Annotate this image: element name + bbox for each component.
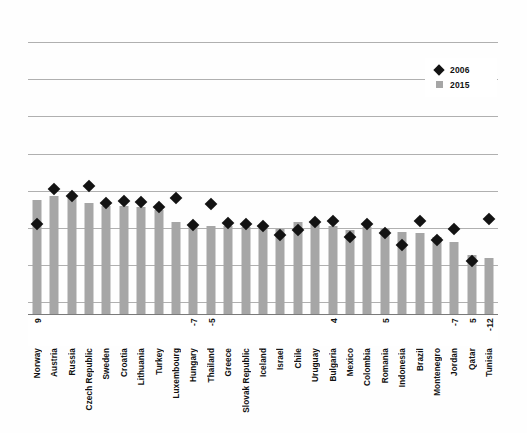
category-label: Greece — [224, 348, 233, 376]
category-label: Mexico — [346, 348, 355, 376]
value-label-row: 9-7-545-75-12 — [28, 316, 498, 346]
category-slot — [376, 4, 393, 315]
marker-2006 — [135, 196, 148, 209]
bar-2015 — [50, 196, 59, 315]
marker-2006 — [48, 183, 61, 196]
point-value-label: -7 — [450, 318, 460, 326]
x-axis-baseline — [28, 314, 498, 315]
bar-2015 — [328, 226, 337, 315]
bar-2015 — [189, 224, 198, 315]
category-slot — [115, 4, 132, 315]
category-label: Norway — [33, 348, 42, 378]
category-slot — [324, 4, 341, 315]
category-slot — [98, 4, 115, 315]
category-slot — [359, 4, 376, 315]
series-layer — [28, 4, 498, 315]
category-slot — [167, 4, 184, 315]
point-value-label: 9 — [33, 318, 43, 323]
bar-2015 — [206, 226, 215, 315]
category-axis-labels: NorwayAustriaRussiaCzech RepublicSwedenC… — [28, 348, 498, 430]
bar-2015 — [224, 226, 233, 315]
bar-2015 — [67, 198, 76, 315]
category-slot — [150, 4, 167, 315]
bar-2015 — [258, 228, 267, 315]
bar-2015 — [84, 203, 93, 315]
category-slot — [446, 4, 463, 315]
category-label: Thailand — [207, 348, 216, 382]
category-label: Russia — [68, 348, 77, 375]
legend-label: 2006 — [450, 65, 470, 75]
marker-2006 — [83, 180, 96, 193]
legend-item-2006: 2006 — [431, 62, 493, 77]
category-slot — [411, 4, 428, 315]
category-slot — [185, 4, 202, 315]
bar-2015 — [102, 206, 111, 315]
category-label: Croatia — [120, 348, 129, 377]
category-label: Luxembourg — [172, 348, 181, 399]
category-slot — [272, 4, 289, 315]
category-slot — [463, 4, 480, 315]
category-slot — [132, 4, 149, 315]
category-slot — [202, 4, 219, 315]
bar-2015 — [433, 237, 442, 315]
category-slot — [481, 4, 498, 315]
marker-2006 — [170, 191, 183, 204]
diamond-marker-icon — [431, 66, 447, 74]
bar-2015 — [485, 258, 494, 315]
category-slot — [45, 4, 62, 315]
legend-label: 2015 — [450, 80, 470, 90]
marker-2006 — [204, 198, 217, 211]
category-label: Uruguay — [311, 348, 320, 382]
bar-2015 — [137, 207, 146, 315]
point-value-label: 5 — [381, 318, 391, 323]
category-slot — [254, 4, 271, 315]
category-label: Hungary — [189, 348, 198, 382]
marker-2006 — [413, 215, 426, 228]
category-label: Brazil — [416, 348, 425, 371]
point-value-label: 4 — [329, 318, 339, 323]
bar-2015 — [119, 206, 128, 315]
category-label: Sweden — [102, 348, 111, 380]
bar-2015 — [415, 233, 424, 315]
point-value-label: -5 — [207, 318, 217, 326]
category-label: Chile — [294, 348, 303, 369]
category-slot — [394, 4, 411, 315]
category-label: Tunisia — [485, 348, 494, 377]
plot-area — [28, 4, 498, 315]
point-value-label: 5 — [468, 318, 478, 323]
category-label: Austria — [50, 348, 59, 377]
category-slot — [307, 4, 324, 315]
category-label: Montenegro — [433, 348, 442, 396]
category-label: Iceland — [259, 348, 268, 377]
category-slot — [341, 4, 358, 315]
category-slot — [219, 4, 236, 315]
bar-2015 — [380, 229, 389, 315]
category-slot — [28, 4, 45, 315]
category-label: Israel — [276, 348, 285, 370]
category-slot — [237, 4, 254, 315]
category-slot — [289, 4, 306, 315]
category-label: Romania — [381, 348, 390, 383]
point-value-label: -12 — [485, 318, 495, 331]
bar-2015 — [450, 242, 459, 315]
category-label: Lithuania — [137, 348, 146, 385]
bar-2015 — [363, 227, 372, 315]
bar-2015 — [276, 229, 285, 315]
category-label: Bulgaria — [329, 348, 338, 382]
category-label: Slovak Republic — [242, 348, 251, 413]
category-label: Colombia — [363, 348, 372, 386]
category-slot — [428, 4, 445, 315]
marker-2006 — [483, 212, 496, 225]
legend-item-2015: 2015 — [431, 77, 493, 92]
chart-legend: 2006 2015 — [425, 58, 497, 97]
category-label: Czech Republic — [85, 348, 94, 410]
bar-2015 — [241, 227, 250, 315]
bar-2015 — [154, 210, 163, 315]
square-swatch-icon — [431, 81, 447, 88]
point-value-label: -7 — [189, 318, 199, 326]
bar-2015 — [171, 222, 180, 315]
category-label: Jordan — [450, 348, 459, 376]
marker-2006 — [448, 223, 461, 236]
category-slot — [80, 4, 97, 315]
bar-2015 — [311, 224, 320, 315]
